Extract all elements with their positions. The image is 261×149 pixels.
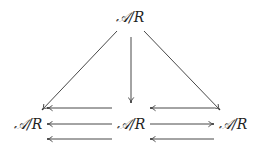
node-top-calligraphic: 𝒜: [116, 9, 129, 25]
arrow-top-to-right: [144, 31, 220, 110]
node-right-calligraphic: 𝒜: [219, 116, 232, 132]
node-left-calligraphic: 𝒜: [14, 116, 27, 132]
node-center-calligraphic: 𝒜: [117, 116, 130, 132]
node-top: 𝒜/R: [116, 9, 144, 25]
node-right-rest: /R: [232, 116, 247, 132]
node-right: 𝒜/R: [219, 116, 247, 132]
arrow-top-to-left: [42, 31, 117, 110]
node-center: 𝒜/R: [117, 116, 145, 132]
node-left: 𝒜/R: [14, 116, 42, 132]
node-left-rest: /R: [27, 116, 42, 132]
node-top-rest: /R: [129, 9, 144, 25]
node-center-rest: /R: [130, 116, 145, 132]
commutative-diagram: 𝒜/R 𝒜/R 𝒜/R 𝒜/R: [0, 0, 261, 149]
